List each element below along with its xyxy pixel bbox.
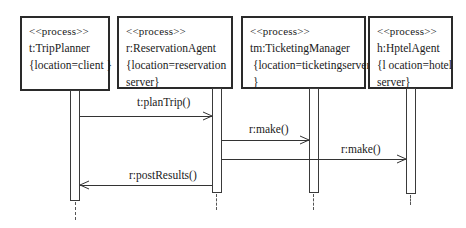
arrowhead-icon <box>203 112 212 120</box>
message-label-post-results: r:postResults() <box>129 169 197 181</box>
message-label-plan-trip: t:planTrip() <box>137 96 190 108</box>
arrowhead-icon <box>300 136 309 144</box>
arrowheads <box>0 0 466 228</box>
message-label-make-ticket: r:make() <box>249 123 289 135</box>
arrowhead-icon <box>397 155 406 163</box>
message-label-make-hotel: r:make() <box>341 143 381 155</box>
arrowhead-icon <box>80 181 89 189</box>
